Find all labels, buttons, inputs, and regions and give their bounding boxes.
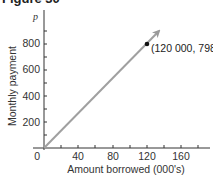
chart-canvas: 800 600 400 200 0 40 80 120 160 p Amount… [0,0,213,177]
payment-line [44,31,159,148]
y-axis-title: Monthly payment [6,46,18,126]
y-tick-label: 600 [22,63,40,75]
x-tick-label: 80 [107,150,119,162]
x-tick-label: 160 [172,150,190,162]
y-tick-label: 400 [22,90,40,102]
x-tick-label: 120 [138,150,156,162]
y-tick-label: 200 [22,116,40,128]
x-axis-title: Amount borrowed (000's) [67,163,185,175]
origin-label: 0 [34,150,40,162]
y-axis-symbol: p [32,11,38,22]
point-annotation: (120 000, 798) [151,42,213,54]
x-tick-label: 40 [72,150,84,162]
data-point [145,42,150,47]
y-tick-label: 800 [22,37,40,49]
